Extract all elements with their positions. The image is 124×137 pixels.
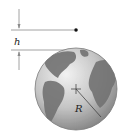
arrow-up-icon	[18, 51, 21, 56]
altitude-diagram: h R	[0, 0, 124, 137]
radius-label: R	[74, 103, 83, 114]
satellite-point	[74, 28, 78, 32]
height-label: h	[14, 36, 20, 47]
arrow-down-icon	[18, 24, 21, 29]
